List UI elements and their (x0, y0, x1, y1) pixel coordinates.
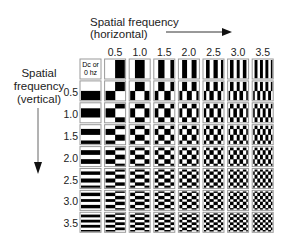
pattern-block (214, 155, 218, 160)
pattern-block (206, 182, 210, 185)
pattern-block (81, 171, 100, 174)
pattern-block (106, 186, 116, 188)
pattern-block (229, 199, 231, 202)
frequency-basis-grid: Dc or0 hz (0, 0, 290, 243)
pattern-block (230, 104, 234, 109)
pattern-block (246, 215, 248, 218)
pattern-block (271, 208, 273, 209)
pattern-block (230, 155, 234, 160)
pattern-block (271, 117, 273, 122)
pattern-block (263, 205, 266, 208)
pattern-block (265, 135, 268, 141)
pattern-block (271, 217, 273, 220)
pattern-block (243, 126, 247, 129)
pattern-block (260, 191, 263, 192)
pattern-block (81, 215, 100, 218)
pattern-block (106, 215, 116, 218)
pattern-block (271, 60, 273, 78)
pattern-block (243, 135, 247, 141)
pattern-block (206, 170, 210, 172)
pattern-block (204, 215, 206, 218)
pattern-block (229, 230, 231, 231)
pattern-block (170, 155, 174, 160)
pattern-block (192, 82, 197, 91)
pattern-block (257, 199, 260, 202)
pattern-block (230, 175, 234, 179)
basis-cell (252, 59, 273, 79)
pattern-block (253, 150, 255, 155)
pattern-block (239, 199, 243, 202)
pattern-block (81, 220, 100, 223)
pattern-block (192, 60, 197, 78)
basis-cell (80, 125, 101, 145)
basis-cell (105, 59, 126, 79)
pattern-block (233, 205, 237, 208)
pattern-block (271, 182, 273, 185)
pattern-block (255, 208, 258, 209)
pattern-block (263, 179, 266, 183)
pattern-block (106, 171, 116, 174)
pattern-block (158, 135, 164, 141)
pattern-block (237, 208, 240, 209)
basis-cell (129, 125, 150, 145)
pattern-block (155, 91, 159, 100)
pattern-block (196, 108, 198, 117)
pattern-block (260, 170, 263, 172)
horizontal-arrow-head-icon (222, 28, 232, 36)
pattern-block (253, 205, 255, 208)
basis-cell (178, 59, 199, 79)
pattern-block (265, 117, 268, 122)
pattern-block (170, 202, 174, 205)
pattern-block (255, 227, 258, 230)
pattern-block (221, 126, 223, 129)
basis-cell (178, 103, 199, 123)
pattern-block (257, 186, 260, 188)
pattern-block (135, 82, 145, 91)
pattern-block (204, 205, 206, 208)
pattern-block (187, 220, 192, 223)
pattern-block (164, 150, 170, 155)
basis-cell (228, 212, 249, 232)
pattern-block (221, 208, 223, 209)
pattern-block (221, 82, 223, 91)
pattern-block (237, 227, 240, 230)
pattern-block (243, 104, 247, 109)
pattern-block (170, 208, 174, 209)
pattern-block (230, 217, 234, 220)
pattern-block (221, 164, 223, 166)
basis-cell (129, 190, 150, 210)
pattern-block (260, 196, 263, 199)
pattern-block (257, 171, 260, 174)
pattern-block (246, 179, 248, 183)
pattern-block (260, 155, 263, 160)
pattern-block (155, 199, 159, 202)
pattern-block (233, 215, 237, 218)
pattern-block (214, 202, 218, 205)
pattern-block (182, 148, 187, 151)
pattern-block (187, 150, 192, 155)
pattern-block (179, 108, 182, 117)
pattern-block (230, 202, 234, 205)
pattern-block (158, 104, 164, 109)
pattern-block (158, 217, 164, 220)
pattern-block (144, 171, 149, 174)
pattern-block (229, 140, 231, 143)
pattern-block (271, 191, 273, 192)
pattern-block (268, 215, 271, 218)
pattern-block (155, 205, 159, 208)
pattern-block (187, 225, 192, 228)
pattern-block (260, 135, 263, 141)
pattern-block (268, 108, 271, 117)
pattern-block (206, 175, 210, 179)
pattern-block (158, 82, 164, 91)
pattern-block (206, 135, 210, 141)
pattern-block (237, 60, 240, 78)
pattern-block (209, 230, 213, 231)
pattern-block (214, 117, 218, 122)
pattern-block (218, 220, 222, 223)
pattern-block (265, 148, 268, 151)
pattern-block (130, 193, 135, 196)
pattern-block (233, 140, 237, 143)
pattern-block (170, 135, 174, 141)
pattern-block (237, 202, 240, 205)
